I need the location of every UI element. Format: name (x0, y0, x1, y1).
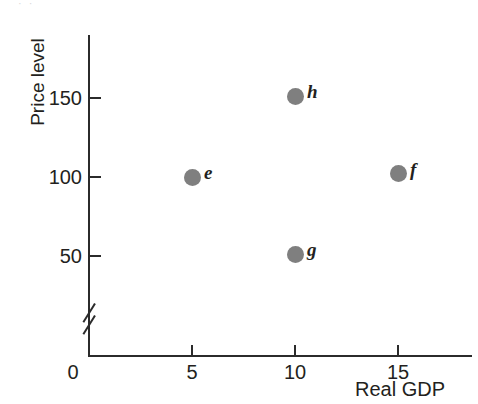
data-point-h (287, 88, 304, 105)
data-point-e (184, 169, 201, 186)
y-tick-mark (90, 97, 101, 99)
y-tick-mark (90, 255, 101, 257)
x-tick-label: 0 (43, 361, 103, 383)
data-point-label-h: h (307, 82, 318, 101)
y-tick-label: 100 (0, 167, 82, 187)
data-point-label-e: e (204, 163, 212, 182)
scatter-chart-figure: · · 50100150 051015 Price level Real GDP… (0, 0, 478, 404)
x-tick-label: 5 (162, 361, 222, 383)
x-tick-mark (294, 345, 296, 356)
x-tick-label: 10 (265, 361, 325, 383)
data-point-g (287, 246, 304, 263)
y-tick-mark (90, 176, 101, 178)
y-tick-label: 50 (0, 246, 82, 266)
x-axis-line (88, 355, 472, 357)
data-point-f (390, 165, 407, 182)
data-point-label-g: g (307, 240, 317, 259)
x-tick-mark (191, 345, 193, 356)
y-axis-break-icon (76, 302, 102, 336)
y-axis-title: Price level (28, 22, 48, 142)
scan-artifact-text: · · (18, 0, 58, 7)
data-point-label-f: f (410, 160, 416, 179)
x-tick-mark (397, 345, 399, 356)
x-axis-title: Real GDP (355, 378, 445, 400)
